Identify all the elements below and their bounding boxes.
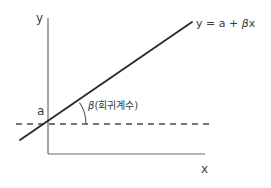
equation-beta: β bbox=[242, 17, 249, 30]
angle-arc-icon bbox=[80, 103, 87, 125]
equation-lhs: y bbox=[196, 17, 203, 30]
regression-line-diagram: y x a y = a + βx β(회귀계수) bbox=[0, 0, 271, 188]
slope-annotation-label: β(회귀계수) bbox=[88, 101, 138, 111]
regression-line bbox=[20, 22, 192, 140]
equation-equals: = bbox=[206, 17, 215, 30]
x-axis-label: x bbox=[201, 163, 208, 175]
equation-intercept: a bbox=[219, 17, 226, 30]
equation-plus: + bbox=[229, 17, 238, 30]
intercept-label: a bbox=[37, 105, 44, 117]
equation-label: y = a + βx bbox=[196, 18, 255, 29]
slope-annotation-text: (회귀계수) bbox=[94, 100, 138, 111]
equation-x: x bbox=[249, 17, 256, 30]
y-axis-label: y bbox=[36, 12, 43, 24]
